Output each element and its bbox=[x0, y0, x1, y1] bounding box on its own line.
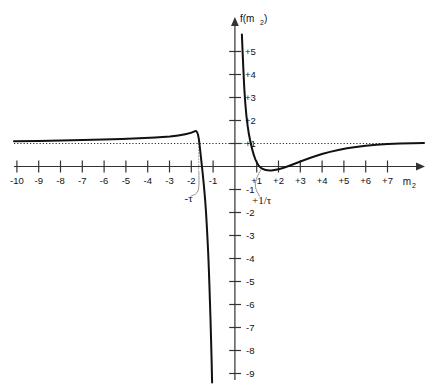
y-tick-label: +5 bbox=[245, 46, 256, 57]
y-tick-label: -4 bbox=[246, 253, 254, 264]
x-tick-label: +5 bbox=[338, 175, 349, 186]
y-axis-tick-labels: +5 +4 +3 +2 +1 -1 -2 -3 -4 -5 -6 -7 -8 -… bbox=[245, 46, 256, 379]
x-axis-arrowhead bbox=[416, 163, 425, 171]
x-tick-label: -7 bbox=[78, 175, 86, 186]
x-axis-title-subscript: 2 bbox=[412, 182, 416, 189]
x-tick-label: -4 bbox=[143, 175, 151, 186]
y-tick-label: -6 bbox=[246, 299, 254, 310]
y-tick-label: -9 bbox=[246, 368, 254, 379]
curve-right-branch bbox=[242, 35, 424, 171]
x-tick-label: -9 bbox=[34, 175, 42, 186]
y-tick-label: -7 bbox=[246, 322, 254, 333]
y-axis-title-main: f(m bbox=[240, 13, 254, 24]
y-tick-label: -5 bbox=[246, 276, 254, 287]
x-tick-label: -2 bbox=[187, 175, 195, 186]
y-tick-label: -2 bbox=[246, 207, 254, 218]
x-tick-label: -3 bbox=[165, 175, 173, 186]
x-axis-tick-labels: -10 -9 -8 -7 -6 -5 -4 -3 -2 -1 +1 +2 +3 … bbox=[10, 175, 393, 186]
x-tick-label: -5 bbox=[122, 175, 130, 186]
x-axis-title-main: m bbox=[403, 176, 411, 187]
annotation-neg-tau-label: -τ bbox=[185, 192, 194, 204]
chart-svg: -10 -9 -8 -7 -6 -5 -4 -3 -2 -1 +1 +2 +3 … bbox=[0, 0, 433, 388]
y-tick-label: +3 bbox=[245, 92, 256, 103]
y-axis-arrowhead bbox=[231, 17, 239, 26]
annotation-pos-one-over-tau-label: +1/τ bbox=[252, 194, 272, 206]
x-tick-label: +7 bbox=[382, 175, 393, 186]
x-tick-label: -1 bbox=[209, 175, 217, 186]
y-tick-label: -8 bbox=[246, 345, 254, 356]
x-tick-label: -8 bbox=[56, 175, 64, 186]
curve-left-branch bbox=[14, 131, 212, 382]
y-axis-title: f(m 2 ) bbox=[240, 13, 267, 26]
y-axis-title-tail: ) bbox=[264, 13, 267, 24]
chart-figure: -10 -9 -8 -7 -6 -5 -4 -3 -2 -1 +1 +2 +3 … bbox=[0, 0, 433, 388]
x-axis-title: m 2 bbox=[403, 176, 416, 189]
x-tick-label: +3 bbox=[295, 175, 306, 186]
x-tick-label: +6 bbox=[360, 175, 371, 186]
y-tick-label: -3 bbox=[246, 230, 254, 241]
x-tick-label: +2 bbox=[273, 175, 284, 186]
x-tick-label: -10 bbox=[10, 175, 24, 186]
y-tick-label: +4 bbox=[245, 69, 256, 80]
x-axis-group: -10 -9 -8 -7 -6 -5 -4 -3 -2 -1 +1 +2 +3 … bbox=[10, 161, 425, 190]
x-tick-label: -6 bbox=[100, 175, 108, 186]
x-tick-label: +4 bbox=[317, 175, 328, 186]
